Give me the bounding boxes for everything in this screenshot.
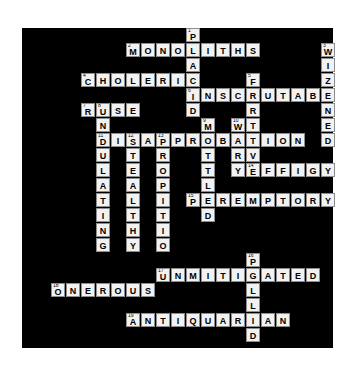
crossword-cell[interactable]: P: [171, 133, 185, 147]
crossword-cell[interactable]: T: [246, 133, 260, 147]
crossword-cell[interactable]: Y: [321, 193, 335, 207]
crossword-cell[interactable]: Y: [321, 163, 335, 177]
crossword-cell[interactable]: T: [156, 313, 170, 327]
crossword-cell[interactable]: L: [246, 283, 260, 297]
crossword-cell[interactable]: I: [96, 208, 110, 222]
crossword-cell[interactable]: N: [291, 133, 305, 147]
crossword-cell[interactable]: R: [246, 103, 260, 117]
crossword-cell[interactable]: F: [276, 163, 290, 177]
crossword-cell[interactable]: 17U: [156, 268, 170, 282]
crossword-cell[interactable]: O: [111, 283, 125, 297]
crossword-cell[interactable]: H: [126, 223, 140, 237]
crossword-cell[interactable]: I: [201, 43, 215, 57]
crossword-cell[interactable]: T: [246, 118, 260, 132]
crossword-cell[interactable]: T: [216, 43, 230, 57]
crossword-cell[interactable]: T: [216, 268, 230, 282]
crossword-cell[interactable]: S: [111, 103, 125, 117]
crossword-cell[interactable]: E: [126, 163, 140, 177]
crossword-cell[interactable]: N: [141, 313, 155, 327]
crossword-cell[interactable]: O: [276, 133, 290, 147]
crossword-cell[interactable]: P: [156, 178, 170, 192]
crossword-cell[interactable]: 19A: [126, 313, 140, 327]
crossword-cell[interactable]: I: [291, 163, 305, 177]
crossword-cell[interactable]: E: [126, 103, 140, 117]
crossword-cell[interactable]: O: [171, 43, 185, 57]
crossword-cell[interactable]: E: [231, 193, 245, 207]
crossword-cell[interactable]: E: [141, 73, 155, 87]
crossword-cell[interactable]: Z: [321, 73, 335, 87]
crossword-cell[interactable]: T: [276, 193, 290, 207]
crossword-cell[interactable]: 8U: [96, 103, 110, 117]
crossword-cell[interactable]: U: [96, 148, 110, 162]
crossword-cell[interactable]: 3W: [321, 43, 335, 57]
crossword-cell[interactable]: R: [246, 88, 260, 102]
crossword-cell[interactable]: E: [81, 283, 95, 297]
crossword-cell[interactable]: S: [246, 43, 260, 57]
crossword-cell[interactable]: A: [261, 268, 275, 282]
crossword-cell[interactable]: T: [126, 148, 140, 162]
crossword-cell[interactable]: N: [171, 268, 185, 282]
crossword-cell[interactable]: R: [216, 193, 230, 207]
crossword-cell[interactable]: 16P: [246, 253, 260, 267]
crossword-cell[interactable]: R: [156, 73, 170, 87]
crossword-cell[interactable]: O: [156, 163, 170, 177]
crossword-cell[interactable]: D: [201, 208, 215, 222]
crossword-cell[interactable]: P: [261, 193, 275, 207]
crossword-cell[interactable]: I: [321, 58, 335, 72]
crossword-cell[interactable]: I: [171, 73, 185, 87]
crossword-cell[interactable]: D: [186, 103, 200, 117]
crossword-cell[interactable]: O: [111, 73, 125, 87]
crossword-cell[interactable]: O: [156, 238, 170, 252]
crossword-cell[interactable]: A: [216, 313, 230, 327]
crossword-cell[interactable]: F: [261, 163, 275, 177]
crossword-grid[interactable]: 1P2MONOLITHS3WAI4CHOLERIC5FZ6INSCRUTABE7…: [22, 28, 333, 348]
crossword-cell[interactable]: L: [126, 73, 140, 87]
crossword-cell[interactable]: N: [96, 118, 110, 132]
crossword-cell[interactable]: R: [231, 313, 245, 327]
crossword-cell[interactable]: G: [306, 163, 320, 177]
crossword-cell[interactable]: A: [291, 88, 305, 102]
crossword-cell[interactable]: H: [96, 73, 110, 87]
crossword-cell[interactable]: U: [126, 283, 140, 297]
crossword-cell[interactable]: 2M: [126, 43, 140, 57]
crossword-cell[interactable]: T: [276, 268, 290, 282]
crossword-cell[interactable]: N: [276, 313, 290, 327]
crossword-cell[interactable]: N: [321, 103, 335, 117]
crossword-cell[interactable]: 18O: [51, 283, 65, 297]
crossword-cell[interactable]: B: [216, 133, 230, 147]
crossword-cell[interactable]: I: [171, 313, 185, 327]
crossword-cell[interactable]: 13P: [156, 133, 170, 147]
crossword-cell[interactable]: I: [231, 268, 245, 282]
crossword-cell[interactable]: A: [261, 313, 275, 327]
crossword-cell[interactable]: A: [186, 58, 200, 72]
crossword-cell[interactable]: D: [306, 268, 320, 282]
crossword-cell[interactable]: A: [126, 178, 140, 192]
crossword-cell[interactable]: M: [186, 268, 200, 282]
crossword-cell[interactable]: 12S: [126, 133, 140, 147]
crossword-cell[interactable]: G: [96, 238, 110, 252]
crossword-cell[interactable]: V: [246, 148, 260, 162]
crossword-cell[interactable]: 15P: [186, 193, 200, 207]
crossword-cell[interactable]: T: [96, 193, 110, 207]
crossword-cell[interactable]: 5F: [246, 73, 260, 87]
crossword-cell[interactable]: M: [246, 193, 260, 207]
crossword-cell[interactable]: 6I: [186, 88, 200, 102]
crossword-cell[interactable]: I: [201, 268, 215, 282]
crossword-cell[interactable]: T: [201, 148, 215, 162]
crossword-cell[interactable]: 4C: [81, 73, 95, 87]
crossword-cell[interactable]: 11D: [96, 133, 110, 147]
crossword-cell[interactable]: A: [96, 178, 110, 192]
crossword-cell[interactable]: C: [186, 73, 200, 87]
crossword-cell[interactable]: T: [126, 208, 140, 222]
crossword-cell[interactable]: U: [201, 313, 215, 327]
crossword-cell[interactable]: U: [261, 88, 275, 102]
crossword-cell[interactable]: T: [276, 88, 290, 102]
crossword-cell[interactable]: R: [186, 133, 200, 147]
crossword-cell[interactable]: G: [246, 268, 260, 282]
crossword-cell[interactable]: Q: [186, 313, 200, 327]
crossword-cell[interactable]: Y: [126, 238, 140, 252]
crossword-cell[interactable]: O: [291, 193, 305, 207]
crossword-cell[interactable]: E: [321, 88, 335, 102]
crossword-cell[interactable]: R: [231, 148, 245, 162]
crossword-cell[interactable]: N: [201, 88, 215, 102]
